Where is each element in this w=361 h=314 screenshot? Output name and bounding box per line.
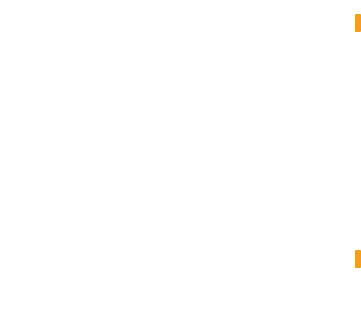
graph-31b [210, 18, 335, 153]
graph-32a [58, 173, 183, 308]
margin-marker-bottom [355, 250, 361, 268]
graph-32b [210, 173, 335, 308]
margin-marker-top [355, 14, 361, 32]
graph-31a [58, 18, 183, 153]
